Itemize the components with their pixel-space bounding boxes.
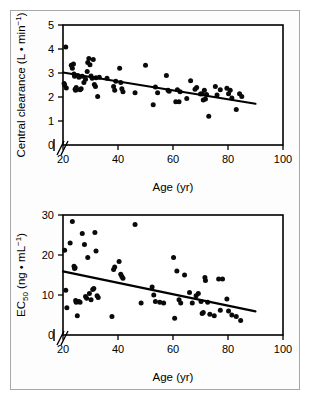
data-point [202, 88, 207, 93]
y-tick-label: 0 [48, 329, 54, 341]
x-tick-label: 60 [167, 153, 179, 165]
x-axis-title-bottom: Age (yr) [153, 371, 194, 383]
data-point [91, 57, 96, 62]
data-point [75, 313, 80, 318]
data-point [117, 66, 122, 71]
chart-panel-ec50: 204060801000102030 EC50 (ng • mL−1) Age … [11, 203, 301, 393]
data-point [194, 85, 199, 90]
data-point [79, 86, 84, 91]
y-title-tail-bottom: ) [15, 233, 27, 237]
y-title-mid-bottom: (ng • mL [15, 245, 27, 292]
data-point [213, 84, 218, 89]
data-point [234, 314, 239, 319]
data-point [155, 90, 160, 95]
data-point [172, 316, 177, 321]
y-tick-label: 4 [48, 43, 54, 55]
data-point [151, 102, 156, 107]
data-point [218, 87, 223, 92]
central-clearance-svg: 20406080100012345 Central clearance (L •… [11, 13, 301, 203]
data-point [85, 69, 90, 74]
data-point [63, 45, 68, 50]
x-tick-label: 20 [57, 343, 69, 355]
x-tick-label: 100 [274, 343, 292, 355]
data-point [234, 107, 239, 112]
data-point [70, 219, 75, 224]
x-tick-label: 20 [57, 153, 69, 165]
data-point [87, 62, 92, 67]
svg-text:EC50 (ng • mL−1): EC50 (ng • mL−1) [14, 233, 30, 317]
data-point [93, 84, 98, 89]
data-point [64, 305, 69, 310]
figure-outer-frame: 20406080100012345 Central clearance (L •… [10, 10, 300, 390]
figure-container: 20406080100012345 Central clearance (L •… [0, 0, 312, 401]
y-tick-label: 0 [48, 139, 54, 151]
y-tick-label: 1 [48, 115, 54, 127]
x-tick-label: 40 [112, 153, 124, 165]
y-title-main-top: Central clearance (L [15, 53, 27, 157]
data-point [153, 299, 158, 304]
data-point [151, 293, 156, 298]
data-point [203, 96, 208, 101]
ec50-svg: 204060801000102030 EC50 (ng • mL−1) Age … [11, 203, 301, 393]
data-point [82, 242, 87, 247]
x-tick-label: 60 [167, 343, 179, 355]
plot-area-top: 20406080100012345 [48, 19, 292, 165]
data-point [62, 248, 67, 253]
data-point [64, 85, 69, 90]
data-point [73, 265, 78, 270]
data-point [226, 309, 231, 314]
data-point [63, 288, 68, 293]
data-point [80, 231, 85, 236]
data-point [228, 88, 233, 93]
data-point [196, 291, 201, 296]
data-point [85, 255, 90, 260]
data-point [203, 278, 208, 283]
y-tick-label: 20 [42, 249, 54, 261]
x-tick-label: 80 [222, 343, 234, 355]
data-point [71, 61, 76, 66]
data-point [224, 297, 229, 302]
data-point [184, 96, 189, 101]
data-point [91, 286, 96, 291]
data-point [143, 63, 148, 68]
x-tick-label: 100 [274, 153, 292, 165]
data-point [86, 56, 91, 61]
data-point [190, 301, 195, 306]
y-tick-label: 10 [42, 289, 54, 301]
svg-text:Central clearance (L • min−1): Central clearance (L • min−1) [14, 13, 27, 158]
data-point [229, 313, 234, 318]
data-point [87, 291, 92, 296]
data-point [207, 312, 212, 317]
y-title-main-bottom: EC [15, 301, 27, 317]
chart-panel-central-clearance: 20406080100012345 Central clearance (L •… [11, 13, 301, 203]
y-title-mid-top: • min [15, 25, 27, 54]
data-point [177, 99, 182, 104]
data-point [139, 301, 144, 306]
data-point [95, 94, 100, 99]
data-point [89, 297, 94, 302]
data-point [133, 222, 138, 227]
data-point [117, 259, 122, 264]
y-tick-label: 5 [48, 19, 54, 31]
data-point [220, 277, 225, 282]
data-point [109, 314, 114, 319]
data-point [212, 313, 217, 318]
data-point [161, 301, 166, 306]
y-axis-title-bottom: EC50 (ng • mL−1) [14, 233, 30, 317]
data-point [84, 296, 89, 301]
data-point [239, 94, 244, 99]
y-axis-title-top: Central clearance (L • min−1) [14, 13, 27, 158]
y-tick-label: 3 [48, 67, 54, 79]
data-point [112, 265, 117, 270]
data-point [120, 89, 125, 94]
data-point [174, 269, 179, 274]
x-axis-title-top: Age (yr) [153, 181, 194, 193]
data-point [70, 66, 75, 71]
data-point [188, 78, 193, 83]
x-tick-label: 40 [112, 343, 124, 355]
data-point [112, 88, 117, 93]
data-point [96, 295, 101, 300]
data-point [182, 273, 187, 278]
data-point [178, 301, 183, 306]
y-tick-label: 2 [48, 91, 54, 103]
